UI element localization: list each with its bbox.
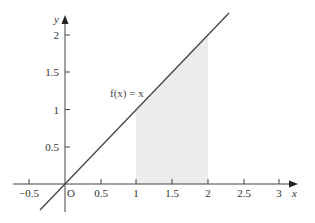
function-label: f(x) = x	[110, 87, 144, 100]
y-tick-label: 1	[54, 104, 60, 116]
origin-label: O	[67, 187, 75, 199]
y-tick-label: 0.5	[45, 141, 59, 153]
x-axis-label: x	[291, 187, 297, 199]
x-tick-label: 0.5	[94, 187, 108, 199]
x-tick-label: 2.5	[237, 187, 251, 199]
shaded-area	[136, 35, 208, 184]
x-tick-label: −0.5	[19, 187, 39, 199]
chart: −0.5 0.5 1 1.5 2 2.5 3 0.5 1 1.5 2 x y O…	[0, 0, 315, 223]
y-ticks	[65, 35, 70, 147]
x-tick-label: 1.5	[165, 187, 179, 199]
x-tick-label: 2	[205, 187, 211, 199]
x-tick-label: 1	[133, 187, 139, 199]
y-axis-arrow-icon	[62, 15, 69, 24]
x-tick-label: 3	[276, 187, 282, 199]
y-tick-label: 1.5	[45, 66, 59, 78]
y-tick-label: 2	[54, 29, 60, 41]
y-axis-label: y	[53, 13, 59, 25]
